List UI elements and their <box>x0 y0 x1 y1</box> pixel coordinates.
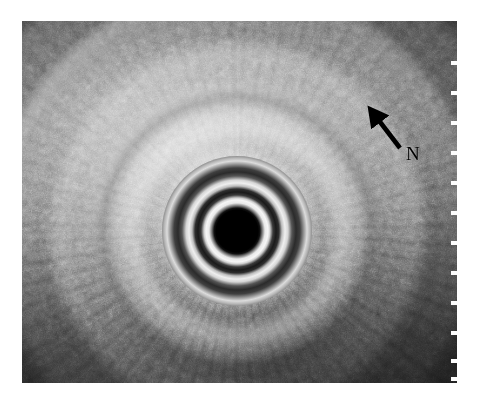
annotation-label-n: N <box>406 144 420 163</box>
page-right-margin <box>457 0 478 408</box>
ultrasound-scan-image: N <box>22 21 457 383</box>
figure-root: N <box>0 0 478 408</box>
edge-vignette <box>22 21 457 383</box>
